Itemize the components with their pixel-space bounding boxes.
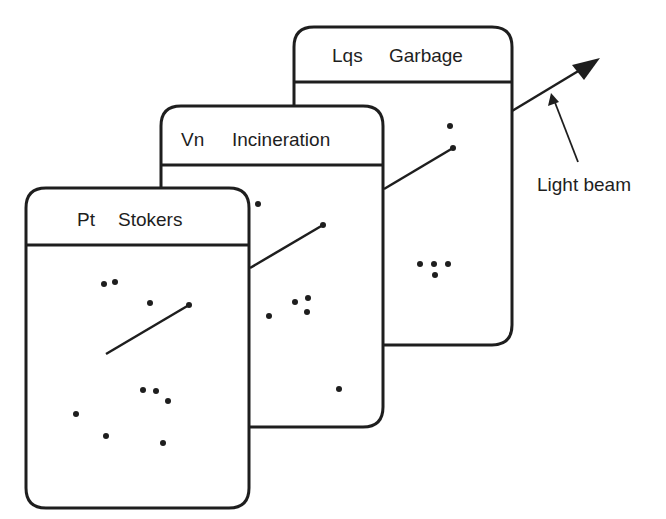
- pointer-arrowhead-icon: [548, 93, 559, 106]
- light-beam-label: Light beam: [537, 174, 631, 195]
- card-front-code: Pt: [77, 209, 96, 230]
- card-back-title: Garbage: [389, 45, 463, 66]
- card-middle-code: Vn: [181, 129, 204, 150]
- card-front: [26, 188, 249, 508]
- peek-a-boo-card-diagram: Lqs Garbage Vn Incineration Pt Stokers L…: [0, 0, 666, 519]
- card-back-code: Lqs: [332, 45, 363, 66]
- beam-arrowhead-icon: [572, 58, 600, 80]
- card-front-title: Stokers: [118, 209, 182, 230]
- card-middle-title: Incineration: [232, 129, 330, 150]
- pointer-line: [554, 100, 578, 162]
